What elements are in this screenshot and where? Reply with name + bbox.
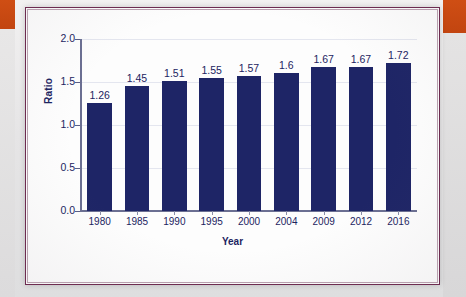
y-axis-tick-label: 2.0	[41, 32, 75, 44]
bar-value-label: 1.67	[313, 53, 333, 65]
page-corner-accent-left	[0, 0, 15, 29]
bar	[125, 86, 150, 211]
x-axis-tick-label: 1990	[163, 216, 185, 227]
x-axis-tick-label: 2012	[350, 216, 372, 227]
bar-value-label: 1.26	[89, 89, 109, 101]
y-axis-tick-label: 0.5	[41, 161, 75, 173]
bar-group: 1.55	[199, 39, 224, 211]
bar-group: 1.67	[349, 39, 374, 211]
bar-group: 1.6	[274, 39, 299, 211]
x-axis-tick-mark	[324, 211, 325, 215]
bar	[274, 73, 299, 211]
bar-value-label: 1.72	[388, 49, 408, 61]
bar-group: 1.51	[162, 39, 187, 211]
bar	[87, 103, 112, 211]
x-axis-tick-label: 2000	[238, 216, 260, 227]
bar-series: 1.261.451.511.551.571.61.671.671.72	[81, 39, 417, 211]
bar-value-label: 1.57	[239, 62, 259, 74]
bar	[386, 63, 411, 211]
x-axis-tick-label: 2016	[387, 216, 409, 227]
bar-group: 1.45	[125, 39, 150, 211]
bar-group: 1.67	[311, 39, 336, 211]
page-margin-right	[443, 33, 466, 297]
x-axis-tick-label: 1985	[126, 216, 148, 227]
bar-value-label: 1.67	[351, 53, 371, 65]
x-axis-tick-label: 2004	[275, 216, 297, 227]
bar-group: 1.72	[386, 39, 411, 211]
x-axis-tick-mark	[398, 211, 399, 215]
page-margin-left	[0, 29, 15, 297]
x-axis-tick-mark	[361, 211, 362, 215]
bar-group: 1.26	[87, 39, 112, 211]
x-axis-tick-mark	[249, 211, 250, 215]
x-axis-title: Year	[26, 236, 439, 247]
x-axis-tick-mark	[137, 211, 138, 215]
x-axis-tick-label: 1995	[201, 216, 223, 227]
x-axis-tick-label: 2009	[313, 216, 335, 227]
y-axis-tick-label: 1.0	[41, 118, 75, 130]
x-axis-tick-mark	[100, 211, 101, 215]
bar	[237, 76, 262, 211]
y-axis-tick-label: 1.5	[41, 75, 75, 87]
bar-chart: Ratio 0.00.51.01.52.0 1.261.451.511.551.…	[26, 8, 439, 284]
bar-group: 1.57	[237, 39, 262, 211]
bar	[311, 67, 336, 211]
x-axis-tick-label: 1980	[89, 216, 111, 227]
x-axis-tick-mark	[212, 211, 213, 215]
page-corner-accent-right	[443, 0, 466, 33]
y-axis-tick-label: 0.0	[41, 204, 75, 216]
bar-value-label: 1.6	[279, 59, 294, 71]
bar	[162, 81, 187, 211]
bar-value-label: 1.51	[164, 67, 184, 79]
chart-figure-frame: Ratio 0.00.51.01.52.0 1.261.451.511.551.…	[25, 7, 440, 285]
bar-value-label: 1.55	[201, 64, 221, 76]
bar-value-label: 1.45	[127, 72, 147, 84]
bar	[199, 78, 224, 211]
x-axis-tick-mark	[286, 211, 287, 215]
x-axis-tick-mark	[174, 211, 175, 215]
bar	[349, 67, 374, 211]
